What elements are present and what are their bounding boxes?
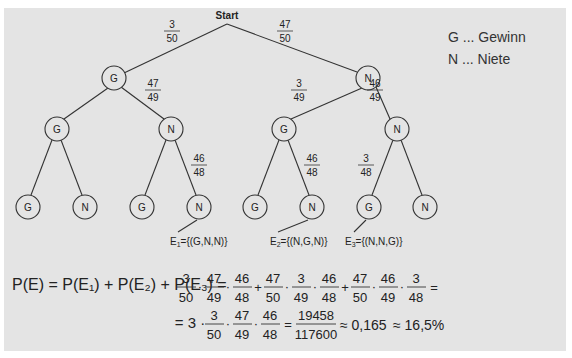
svg-text:·: · <box>226 279 230 294</box>
svg-text:46: 46 <box>322 271 336 286</box>
svg-text:47: 47 <box>266 271 280 286</box>
node-label: G <box>53 124 61 135</box>
legend-gewinn: G ... Gewinn <box>448 26 526 48</box>
svg-text:48: 48 <box>306 167 318 178</box>
formula-lhs: P(E) = P(E₁) + P(E₂) + P(E₃) = <box>12 276 227 293</box>
svg-text:48: 48 <box>263 327 277 342</box>
svg-text:50: 50 <box>207 327 221 342</box>
node-label: N <box>167 124 174 135</box>
svg-text:50: 50 <box>266 290 280 305</box>
svg-text:47: 47 <box>207 271 221 286</box>
svg-text:46: 46 <box>369 78 381 89</box>
node-label: N <box>393 124 400 135</box>
svg-text:·: · <box>198 279 202 294</box>
svg-text:49: 49 <box>294 290 308 305</box>
svg-text:+: + <box>341 280 349 295</box>
svg-text:49: 49 <box>235 327 249 342</box>
svg-text:46: 46 <box>306 153 318 164</box>
svg-text:=: = <box>284 317 292 332</box>
svg-text:50: 50 <box>166 33 178 44</box>
node-label: G <box>110 73 118 84</box>
svg-text:49: 49 <box>293 92 305 103</box>
node-label: N <box>81 202 88 213</box>
legend: G ... Gewinn N ... Niete <box>448 26 526 70</box>
svg-text:49: 49 <box>381 290 395 305</box>
svg-text:3: 3 <box>412 271 419 286</box>
node-label: G <box>280 124 288 135</box>
node-label: N <box>421 202 428 213</box>
approx-decimal: ≈ 0,165 <box>340 317 387 333</box>
svg-text:= 3 ·: = 3 · <box>175 314 205 331</box>
svg-text:·: · <box>313 279 317 294</box>
svg-text:·: · <box>400 279 404 294</box>
svg-text:48: 48 <box>409 290 423 305</box>
approx-percent: ≈ 16,5% <box>393 317 444 333</box>
node-label: N <box>308 202 315 213</box>
event-e1: E1={(G,N,N)} <box>170 236 228 248</box>
svg-text:49: 49 <box>147 92 159 103</box>
svg-text:3: 3 <box>297 271 304 286</box>
node-label: G <box>138 202 146 213</box>
svg-text:50: 50 <box>353 290 367 305</box>
svg-text:49: 49 <box>207 290 221 305</box>
legend-niete: N ... Niete <box>448 48 526 70</box>
svg-text:48: 48 <box>360 167 372 178</box>
svg-text:=: = <box>430 280 438 295</box>
svg-text:47: 47 <box>235 308 249 323</box>
svg-text:47: 47 <box>279 19 291 30</box>
svg-text:50: 50 <box>179 290 193 305</box>
svg-text:+: + <box>254 280 262 295</box>
svg-text:48: 48 <box>322 290 336 305</box>
svg-text:·: · <box>372 279 376 294</box>
svg-text:3: 3 <box>296 78 302 89</box>
svg-text:117600: 117600 <box>295 327 337 342</box>
svg-text:47: 47 <box>353 271 367 286</box>
svg-text:46: 46 <box>235 271 249 286</box>
svg-text:3: 3 <box>363 153 369 164</box>
svg-text:46: 46 <box>193 153 205 164</box>
svg-text:·: · <box>226 316 230 331</box>
svg-text:·: · <box>285 279 289 294</box>
svg-text:3: 3 <box>169 19 175 30</box>
probability-formula: P(E) = P(E₁) + P(E₂) + P(E₃) = 350 · 474… <box>12 271 444 342</box>
svg-text:46: 46 <box>381 271 395 286</box>
svg-text:46: 46 <box>263 308 277 323</box>
node-label: N <box>195 202 202 213</box>
svg-text:3: 3 <box>210 308 217 323</box>
svg-text:19458: 19458 <box>298 308 334 323</box>
event-e2: E2={(N,G,N)} <box>270 236 328 248</box>
svg-text:48: 48 <box>193 167 205 178</box>
node-label: G <box>365 202 373 213</box>
node-label: G <box>251 202 259 213</box>
svg-text:49: 49 <box>369 92 381 103</box>
svg-text:48: 48 <box>235 290 249 305</box>
svg-text:·: · <box>254 316 258 331</box>
svg-text:50: 50 <box>279 33 291 44</box>
event-labels: E1={(G,N,N)} E2={(N,G,N)} E3={(N,N,G)} <box>170 236 403 248</box>
svg-text:3: 3 <box>182 271 189 286</box>
svg-text:47: 47 <box>147 78 159 89</box>
root-label: Start <box>216 10 239 21</box>
event-e3: E3={(N,N,G)} <box>345 236 403 248</box>
node-label: G <box>24 202 32 213</box>
